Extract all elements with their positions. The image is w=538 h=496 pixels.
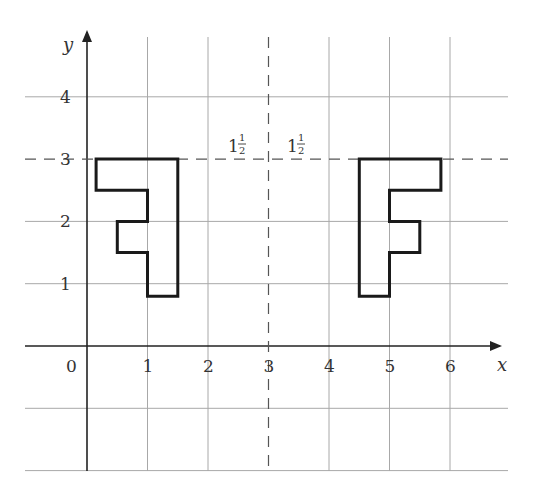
x-tick-label: 6 xyxy=(445,356,456,376)
coordinate-diagram: 01234561234 x y 1 1 2 1 1 2 xyxy=(0,0,538,496)
distance-label-right: 1 1 2 xyxy=(287,132,305,156)
tick-labels: 01234561234 xyxy=(60,87,456,376)
x-tick-label: 2 xyxy=(203,356,214,376)
svg-text:1: 1 xyxy=(228,136,239,156)
x-tick-label: 3 xyxy=(264,356,275,376)
y-tick-label: 2 xyxy=(60,211,71,231)
y-tick-label: 1 xyxy=(60,274,71,294)
svg-text:2: 2 xyxy=(298,145,304,156)
svg-text:1: 1 xyxy=(287,136,298,156)
x-tick-label: 0 xyxy=(66,356,77,376)
y-tick-label: 4 xyxy=(60,87,71,107)
grid-lines xyxy=(25,37,508,471)
distance-label-left: 1 1 2 xyxy=(228,132,246,156)
svg-text:1: 1 xyxy=(239,132,245,143)
x-tick-label: 5 xyxy=(385,356,396,376)
y-tick-label: 3 xyxy=(60,149,71,169)
x-axis-label: x xyxy=(497,354,507,375)
mirror-lines xyxy=(25,37,508,471)
svg-text:2: 2 xyxy=(239,145,245,156)
x-tick-label: 4 xyxy=(324,356,335,376)
reflected-F-shape xyxy=(96,159,178,296)
coordinate-plane: 01234561234 x y 1 1 2 1 1 2 xyxy=(0,0,538,496)
svg-text:1: 1 xyxy=(298,132,304,143)
y-axis-label: y xyxy=(62,34,74,55)
axes xyxy=(25,32,500,471)
original-F-shape xyxy=(359,159,441,296)
x-tick-label: 1 xyxy=(143,356,154,376)
